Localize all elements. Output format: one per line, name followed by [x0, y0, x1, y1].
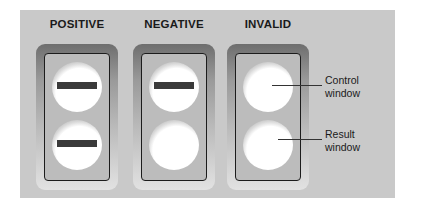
label-line-2: window — [325, 141, 360, 154]
control-leader-line — [272, 85, 322, 86]
label-line-2: window — [325, 87, 360, 100]
result-window-label: Result window — [325, 128, 360, 154]
label-line-1: Control — [325, 74, 360, 87]
result-window — [149, 120, 199, 170]
test-cassette-positive — [36, 44, 118, 190]
title-invalid: INVALID — [218, 18, 318, 30]
cassette-frame — [235, 53, 301, 181]
result-leader-line — [278, 139, 322, 140]
control-window — [149, 62, 199, 112]
control-line — [154, 82, 194, 89]
cassette-frame — [44, 53, 110, 181]
control-window-label: Control window — [325, 74, 360, 100]
title-negative: NEGATIVE — [124, 18, 224, 30]
control-line — [57, 82, 97, 89]
label-line-1: Result — [325, 128, 360, 141]
control-window — [52, 62, 102, 112]
title-positive: POSITIVE — [27, 18, 127, 30]
result-window — [243, 120, 293, 170]
cassette-frame — [141, 53, 207, 181]
result-line — [57, 140, 97, 147]
control-window — [243, 62, 293, 112]
test-cassette-invalid — [227, 44, 309, 190]
result-window — [52, 120, 102, 170]
test-cassette-negative — [133, 44, 215, 190]
